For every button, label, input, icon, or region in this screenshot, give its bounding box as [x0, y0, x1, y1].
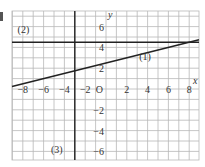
graph-figure: (1)(2)(3)−8−6−4−22468642−2−4−6Oxy [0, 0, 205, 167]
x-tick-label: −6 [38, 84, 49, 95]
y-tick-label: 4 [99, 42, 104, 53]
problem-marker [0, 12, 3, 21]
y-tick-label: 2 [99, 63, 104, 74]
y-axis-label: y [107, 9, 113, 20]
line-label-1: (1) [139, 51, 151, 63]
y-tick-label: 6 [99, 22, 104, 33]
x-tick-label: −8 [17, 84, 28, 95]
x-tick-label: 8 [187, 84, 192, 95]
coordinate-plane: (1)(2)(3)−8−6−4−22468642−2−4−6Oxy [0, 0, 205, 167]
origin-label: O [96, 84, 103, 95]
x-axis-label: x [192, 75, 198, 86]
x-tick-label: −4 [59, 84, 70, 95]
y-tick-label: −4 [93, 126, 104, 137]
line-label-2: (2) [18, 24, 30, 36]
line-1 [12, 40, 199, 87]
x-tick-label: −2 [80, 84, 91, 95]
y-tick-label: −2 [93, 105, 104, 116]
x-tick-label: 4 [145, 84, 150, 95]
x-tick-label: 6 [166, 84, 171, 95]
line-label-3: (3) [51, 144, 63, 156]
x-tick-label: 2 [124, 84, 129, 95]
axis-labels: (1)(2)(3)−8−6−4−22468642−2−4−6Oxy [17, 9, 198, 157]
y-tick-label: −6 [93, 146, 104, 157]
